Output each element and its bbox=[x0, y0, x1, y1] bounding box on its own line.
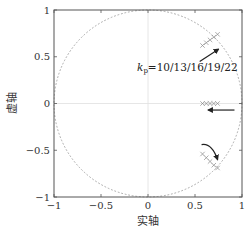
y-tick-label: −1 bbox=[35, 192, 50, 203]
y-axis-label: 虚轴 bbox=[5, 92, 19, 114]
x-marker-icon bbox=[200, 152, 204, 156]
x-marker-icon bbox=[212, 35, 216, 39]
x-tick-label: 1 bbox=[239, 200, 245, 211]
series-lower-complex-poles bbox=[200, 152, 219, 170]
x-axis-label: 实轴 bbox=[137, 214, 159, 228]
x-tick-label: 0.5 bbox=[187, 200, 203, 211]
kp-annotation: kp=10/13/16/19/22 bbox=[137, 61, 238, 75]
y-tick-label: 0 bbox=[44, 98, 50, 109]
x-marker-icon bbox=[215, 32, 219, 36]
x-tick-label: 0 bbox=[145, 200, 151, 211]
x-marker-icon bbox=[212, 163, 216, 167]
y-tick-label: 0.5 bbox=[34, 51, 50, 62]
x-marker-icon bbox=[208, 38, 212, 42]
x-tick-label: −0.5 bbox=[89, 200, 113, 211]
y-tick-label: −0.5 bbox=[26, 145, 50, 156]
x-marker-icon bbox=[204, 156, 208, 160]
x-marker-icon bbox=[204, 41, 208, 45]
x-marker-icon bbox=[208, 159, 212, 163]
pole-markers bbox=[200, 32, 219, 170]
y-tick-label: 1 bbox=[44, 5, 50, 16]
root-locus-chart: −1−0.500.51 −1−0.500.51 kp=10/13/16/19/2… bbox=[0, 0, 250, 233]
arrow-icon bbox=[202, 144, 218, 159]
x-marker-icon bbox=[200, 43, 204, 47]
arrow-icon bbox=[200, 49, 219, 61]
